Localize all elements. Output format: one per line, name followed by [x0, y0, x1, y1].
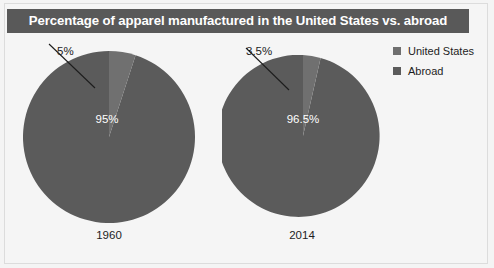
- chart-title-band: Percentage of apparel manufactured in th…: [7, 9, 469, 33]
- legend-item-abroad[interactable]: Abroad: [393, 65, 488, 77]
- chart-canvas: Percentage of apparel manufactured in th…: [0, 0, 494, 268]
- page-title: Percentage of apparel manufactured in th…: [29, 14, 447, 27]
- pie-2014-callout-label: 3.5%: [246, 45, 272, 57]
- chart-legend: United States Abroad: [393, 45, 488, 85]
- legend-swatch-icon-united-states: [393, 47, 401, 55]
- pie-2014-inner-label: 96.5%: [253, 113, 353, 125]
- legend-label-united-states: United States: [408, 46, 474, 57]
- legend-swatch-icon-abroad: [393, 67, 401, 75]
- legend-label-abroad: Abroad: [408, 66, 443, 77]
- pie-1960-category-label: 1960: [59, 229, 159, 241]
- pie-chart-1960: 95%: [23, 51, 195, 223]
- pie-1960-callout-label: 5%: [57, 45, 74, 57]
- pie-chart-2014: 96.5%: [222, 55, 384, 217]
- pie-2014-category-label: 2014: [252, 229, 352, 241]
- legend-item-united-states[interactable]: United States: [393, 45, 488, 57]
- pie-1960-inner-label: 95%: [57, 113, 157, 125]
